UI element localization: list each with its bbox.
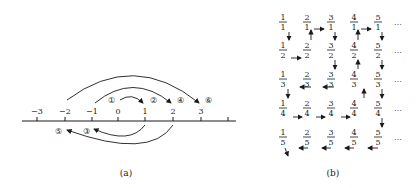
svg-text:3: 3 (328, 99, 333, 108)
svg-text:1: 1 (280, 70, 285, 79)
fraction-5-3: 53 (374, 70, 382, 89)
svg-text:3: 3 (328, 70, 333, 79)
tick-marks (37, 117, 228, 121)
svg-text:5: 5 (375, 41, 380, 50)
fraction-1-1: 11 (279, 13, 287, 32)
svg-text:4: 4 (351, 41, 356, 50)
svg-text:3: 3 (328, 80, 333, 89)
diagram-canvas: −3−2−10123 ①②③④⑤⑥ (a) 1121314151…1222324… (0, 0, 418, 188)
svg-text:5: 5 (351, 138, 356, 147)
fraction-3-5: 35 (327, 128, 335, 147)
svg-text:3: 3 (375, 80, 380, 89)
svg-text:2: 2 (304, 41, 309, 50)
fraction-3-1: 31 (327, 13, 335, 32)
fraction-1-3: 13 (279, 70, 287, 89)
arc-step-1 (120, 97, 143, 103)
svg-text:4: 4 (351, 13, 356, 22)
step-labels: ①②③④⑤⑥ (55, 96, 212, 136)
fraction-3-4: 34 (327, 99, 335, 118)
fraction-5-2: 52 (374, 41, 382, 60)
svg-text:1: 1 (351, 23, 356, 32)
tick-label: 0 (115, 107, 120, 116)
svg-text:4: 4 (351, 99, 356, 108)
svg-text:2: 2 (304, 128, 309, 137)
fraction-grid: 1121314151…1222324252…1323334353…1424344… (279, 13, 402, 147)
svg-text:4: 4 (280, 109, 285, 118)
fraction-4-3: 43 (350, 70, 358, 89)
svg-text:3: 3 (304, 80, 309, 89)
svg-text:5: 5 (375, 13, 380, 22)
arc-step-4 (94, 125, 145, 136)
step-label: ③ (83, 127, 90, 136)
fraction-2-3: 23 (303, 70, 311, 89)
svg-text:1: 1 (280, 99, 285, 108)
svg-text:3: 3 (328, 41, 333, 50)
svg-text:5: 5 (280, 138, 285, 147)
fraction-5-5: 55 (374, 128, 382, 147)
ellipsis: … (394, 18, 402, 27)
fraction-1-2: 12 (279, 41, 287, 60)
svg-text:5: 5 (375, 99, 380, 108)
tick-label: 2 (170, 107, 175, 116)
fraction-2-4: 24 (303, 99, 311, 118)
fraction-2-1: 21 (303, 13, 311, 32)
fraction-4-5: 45 (350, 128, 358, 147)
fraction-3-2: 32 (327, 41, 335, 60)
step-label: ① (108, 96, 115, 105)
svg-text:1: 1 (375, 23, 380, 32)
svg-text:2: 2 (304, 13, 309, 22)
svg-text:3: 3 (328, 13, 333, 22)
fraction-1-4: 14 (279, 99, 287, 118)
svg-text:2: 2 (351, 51, 356, 60)
tick-label: −1 (86, 107, 98, 116)
path-arrow (285, 148, 288, 156)
fraction-2-5: 25 (303, 128, 311, 147)
svg-text:4: 4 (351, 70, 356, 79)
fraction-4-4: 44 (350, 99, 358, 118)
caption-a: (a) (120, 168, 132, 178)
tick-label: 3 (198, 107, 203, 116)
svg-text:4: 4 (351, 109, 356, 118)
ellipsis: … (394, 104, 402, 113)
svg-text:2: 2 (304, 70, 309, 79)
tick-label: −2 (59, 107, 71, 116)
ellipsis: … (394, 75, 402, 84)
tick-label: 1 (142, 107, 147, 116)
fraction-3-3: 33 (327, 70, 335, 89)
svg-text:2: 2 (280, 51, 285, 60)
svg-text:1: 1 (304, 23, 309, 32)
caption-b: (b) (327, 168, 340, 178)
svg-text:3: 3 (351, 80, 356, 89)
tick-label: −3 (31, 107, 43, 116)
svg-text:2: 2 (375, 51, 380, 60)
panel-b: 1121314151…1222324252…1323334353…1424344… (279, 13, 402, 178)
fraction-2-2: 22 (303, 41, 311, 60)
step-label: ② (150, 96, 157, 105)
svg-text:5: 5 (304, 138, 309, 147)
fraction-1-5: 15 (279, 128, 287, 147)
svg-text:1: 1 (280, 128, 285, 137)
svg-text:2: 2 (304, 51, 309, 60)
svg-text:1: 1 (328, 23, 333, 32)
svg-text:5: 5 (375, 138, 380, 147)
fraction-5-4: 54 (374, 99, 382, 118)
step-label: ⑤ (55, 127, 62, 136)
svg-text:1: 1 (280, 41, 285, 50)
svg-text:3: 3 (280, 80, 285, 89)
step-label: ④ (177, 96, 184, 105)
fraction-4-1: 41 (350, 13, 358, 32)
svg-text:4: 4 (351, 128, 356, 137)
svg-text:1: 1 (280, 13, 285, 22)
svg-text:1: 1 (280, 23, 285, 32)
ellipsis: … (394, 46, 402, 55)
svg-text:4: 4 (304, 109, 309, 118)
svg-text:3: 3 (328, 128, 333, 137)
arc-step-2 (95, 88, 171, 104)
fraction-4-2: 42 (350, 41, 358, 60)
svg-text:5: 5 (375, 128, 380, 137)
tick-labels: −3−2−10123 (31, 107, 203, 116)
step-label: ⑥ (205, 96, 212, 105)
svg-text:4: 4 (328, 109, 333, 118)
svg-text:4: 4 (375, 109, 380, 118)
fraction-5-1: 51 (374, 13, 382, 32)
